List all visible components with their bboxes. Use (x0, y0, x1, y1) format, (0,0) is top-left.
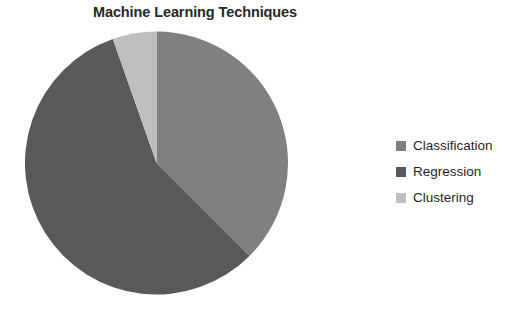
legend-item-classification[interactable]: Classification (396, 133, 529, 159)
legend-item-clustering[interactable]: Clustering (396, 185, 529, 211)
legend-swatch-icon (396, 167, 406, 177)
legend-swatch-icon (396, 193, 406, 203)
pie-chart: Machine Learning Techniques Classificati… (0, 0, 529, 312)
legend-label: Regression (413, 165, 481, 179)
legend-label: Clustering (413, 191, 474, 205)
pie-svg (0, 0, 390, 312)
chart-legend: Classification Regression Clustering (396, 133, 529, 211)
pie-slice-group (25, 32, 288, 295)
legend-swatch-icon (396, 141, 406, 151)
legend-item-regression[interactable]: Regression (396, 159, 529, 185)
legend-label: Classification (413, 139, 493, 153)
pie-plot-area (0, 0, 390, 312)
